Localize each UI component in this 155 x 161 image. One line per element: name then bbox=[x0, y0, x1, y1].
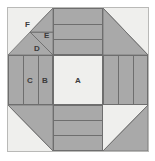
corner-triangles-top-right bbox=[103, 8, 148, 55]
bar-unit-middle-left: C B bbox=[8, 55, 53, 105]
block-frame: F E D C B bbox=[7, 7, 149, 152]
bar-strip-top-1 bbox=[54, 9, 102, 24]
corner-triangles-bottom-right bbox=[103, 105, 148, 151]
bar-strip-top-2 bbox=[54, 25, 102, 39]
bar-strip-right-1 bbox=[104, 56, 118, 104]
corner-unit-bottom-right bbox=[103, 105, 148, 151]
patch-label-F: F bbox=[25, 21, 30, 29]
bar-strip-bottom-3 bbox=[54, 136, 102, 150]
bar-unit-bottom-center bbox=[53, 105, 103, 151]
bar-strip-bottom-2 bbox=[54, 121, 102, 135]
patch-label-B: B bbox=[42, 77, 48, 85]
patch-label-D: D bbox=[34, 45, 40, 53]
center-square-A: A bbox=[53, 55, 103, 105]
corner-unit-bottom-left bbox=[8, 105, 53, 151]
bar-strip-top-3 bbox=[54, 40, 102, 54]
patch-label-C: C bbox=[27, 77, 33, 85]
patch-label-E: E bbox=[44, 32, 49, 40]
corner-triangles-bottom-left bbox=[8, 105, 53, 151]
bar-strip-right-3 bbox=[134, 56, 148, 104]
corner-unit-top-right bbox=[103, 8, 148, 55]
quilt-block-figure: F E D C B bbox=[0, 0, 155, 161]
bar-unit-top-center bbox=[53, 8, 103, 55]
patch-label-A: A bbox=[75, 77, 81, 85]
bar-strip-bottom-1 bbox=[54, 106, 102, 120]
bar-strip-right-2 bbox=[119, 56, 133, 104]
bar-strip-left-1 bbox=[9, 56, 23, 104]
corner-unit-top-left: F E D bbox=[8, 8, 53, 55]
bar-unit-middle-right bbox=[103, 55, 148, 105]
